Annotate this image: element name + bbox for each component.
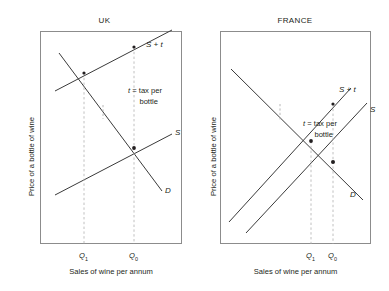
equilibrium-untaxed-uk (132, 146, 136, 150)
demand-label-france: D (350, 190, 356, 199)
supply-label-france: S (370, 105, 375, 114)
tax-line2-uk: bottle (128, 96, 162, 107)
tax-point-uk (132, 45, 135, 48)
curves-uk (0, 0, 195, 291)
demand-label-uk: D (165, 186, 171, 195)
tax-equals-uk: = tax per (130, 86, 162, 95)
tax-equals-france: = tax per (305, 119, 337, 128)
tax-incidence-figure: UK Price of a bottle of wine Sales of wi… (0, 0, 389, 291)
supply-curve-uk (55, 134, 172, 195)
panel-uk: UK Price of a bottle of wine Sales of wi… (0, 0, 195, 291)
equilibrium-untaxed-france (331, 160, 335, 164)
panel-france: FRANCE Price of a bottle of wine Sales o… (195, 0, 389, 291)
tax-annotation-france: t = tax per bottle (303, 118, 337, 140)
tax-line2-france: bottle (303, 129, 337, 140)
tax-point-france (331, 102, 334, 105)
equilibrium-taxed-uk (82, 71, 85, 74)
supply-label-uk: S (175, 128, 180, 137)
tax-annotation-uk: t = tax per bottle (128, 85, 162, 107)
supply-plus-tax-label-france: S + t (339, 85, 356, 94)
supply-plus-tax-label-uk: S + t (146, 40, 163, 49)
demand-curve-uk (59, 53, 162, 191)
curves-france (195, 0, 389, 291)
